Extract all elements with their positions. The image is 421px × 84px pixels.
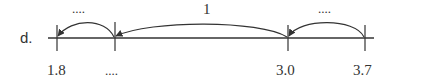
jump-arc-3 — [289, 23, 364, 37]
tick-label-3-0: 3.0 — [276, 62, 295, 78]
tick-label-1-8: 1.8 — [47, 62, 66, 78]
jump-label-2: 1 — [203, 1, 211, 17]
jump-arc-1 — [58, 23, 114, 37]
problem-label: d. — [20, 29, 33, 46]
jump-label-3: .... — [318, 1, 331, 16]
tick-label-unknown: .... — [105, 63, 118, 78]
tick-label-3-7: 3.7 — [353, 62, 372, 78]
jump-arc-2 — [116, 24, 287, 37]
jump-label-1: .... — [72, 1, 85, 16]
number-line-diagram: d. .... 1 .... 1.8 .... 3.0 3.7 — [0, 0, 421, 84]
